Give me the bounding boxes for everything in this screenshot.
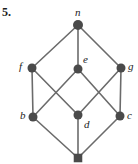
graph-node-c bbox=[116, 112, 125, 121]
graph-node-bottom bbox=[74, 154, 83, 163]
graph-edge-b-bottom bbox=[33, 117, 78, 158]
graph-node-b bbox=[29, 113, 38, 122]
graph-edge-n-f bbox=[32, 25, 78, 68]
node-label-c: c bbox=[127, 110, 132, 121]
node-label-d: d bbox=[84, 119, 90, 130]
graph-node-e bbox=[74, 65, 83, 74]
edge-layer bbox=[32, 25, 121, 158]
graph-node-n bbox=[73, 20, 83, 30]
node-label-b: b bbox=[20, 110, 26, 121]
node-label-f: f bbox=[19, 61, 22, 72]
node-label-g: g bbox=[128, 61, 134, 72]
node-layer bbox=[28, 20, 126, 162]
graph-edge-f-b bbox=[32, 68, 33, 117]
node-label-n: n bbox=[75, 7, 81, 18]
lattice-figure: 5. nfegbdc bbox=[0, 0, 138, 164]
graph-node-f bbox=[28, 64, 37, 73]
hasse-diagram-graphic bbox=[0, 0, 138, 164]
graph-node-d bbox=[74, 111, 83, 120]
graph-node-g bbox=[117, 64, 126, 73]
graph-edge-g-c bbox=[120, 68, 121, 116]
graph-edge-f-d bbox=[32, 68, 78, 115]
node-label-e: e bbox=[83, 54, 88, 65]
